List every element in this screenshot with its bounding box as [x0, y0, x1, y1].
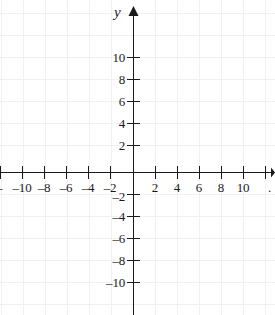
y-tick-label: –2 [96, 190, 125, 203]
x-axis [0, 166, 275, 179]
y-axis [127, 6, 140, 315]
y-tick-label: 4 [96, 117, 125, 130]
x-tick-label: –6 [60, 181, 73, 194]
y-tick-label: –10 [96, 276, 125, 289]
x-label-right-partial: . [268, 181, 271, 194]
y-tick-label: –4 [96, 210, 125, 223]
y-tick-label: –8 [96, 254, 125, 267]
y-tick-label: –6 [96, 232, 125, 245]
x-tick-label: 4 [174, 181, 180, 194]
y-tick-label: 2 [96, 139, 125, 152]
coordinate-plane-figure: y – . –10 –8 –6 –4 –2 2 4 6 8 10 10 8 6 … [0, 0, 275, 315]
x-tick-label: –4 [82, 181, 95, 194]
grid-lines [0, 0, 275, 315]
y-axis-label: y [114, 5, 121, 20]
y-tick-label: 10 [96, 51, 125, 64]
y-tick-label: 6 [96, 95, 125, 108]
x-tick-label: 2 [152, 181, 158, 194]
x-tick-label: –8 [38, 181, 51, 194]
x-tick-label: 6 [196, 181, 202, 194]
y-axis-arrow-icon [129, 6, 139, 16]
x-tick-label: 8 [218, 181, 224, 194]
x-axis-arrow-icon [271, 168, 275, 178]
x-tick-label: –10 [13, 181, 32, 194]
y-tick-label: 8 [96, 73, 125, 86]
x-label-left-partial: – [0, 181, 2, 194]
coordinate-plane-canvas [0, 0, 275, 315]
x-tick-label: 10 [237, 181, 250, 194]
